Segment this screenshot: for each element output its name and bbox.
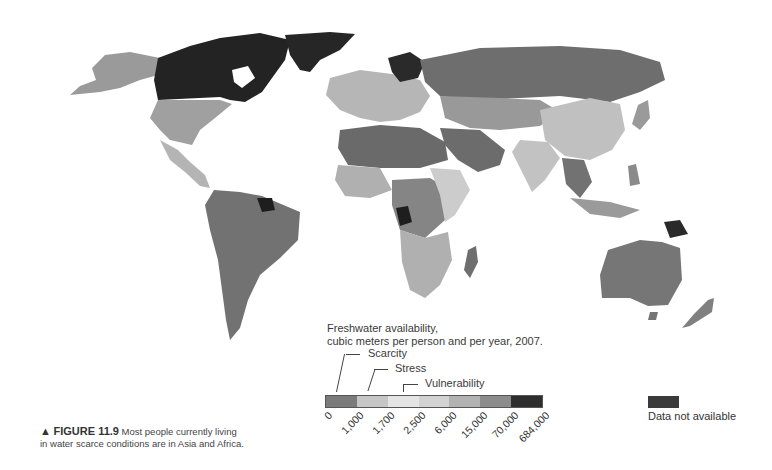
tick-0: 0 <box>322 409 335 422</box>
swatch-1000-1700 <box>357 396 388 407</box>
region-russia <box>420 46 665 102</box>
swatch-15000-70000 <box>480 396 511 407</box>
region-usa <box>150 100 232 145</box>
vulnerability-leader-h <box>404 384 418 385</box>
legend-color-bar <box>325 395 543 408</box>
label-vulnerability: Vulnerability <box>425 377 485 389</box>
tick-15000: 15,000 <box>458 409 489 440</box>
region-papua-new-guinea <box>664 220 688 238</box>
region-greenland <box>285 32 355 72</box>
no-data-label: Data not available <box>648 410 736 422</box>
swatch-0-1000 <box>326 396 357 407</box>
no-data-swatch <box>648 396 679 408</box>
region-alaska <box>70 52 160 95</box>
swatch-1700-2500 <box>388 396 419 407</box>
region-philippines <box>628 164 640 186</box>
region-southeast-asia <box>562 158 592 198</box>
region-indonesia <box>570 198 640 218</box>
region-new-zealand <box>682 298 714 328</box>
region-australia <box>600 240 682 306</box>
swatch-6000-15000 <box>449 396 480 407</box>
figure-caption: ▲ FIGURE 11.9 Most people currently livi… <box>40 425 244 450</box>
tick-2500: 2,500 <box>400 409 427 436</box>
swatch-70000-684000 <box>511 396 542 407</box>
region-middle-east <box>440 128 505 172</box>
label-scarcity: Scarcity <box>368 347 407 359</box>
scarcity-leader-h <box>346 354 360 355</box>
stress-leader-h <box>374 369 388 370</box>
region-south-america <box>205 190 300 340</box>
region-tasmania <box>648 312 658 320</box>
swatch-2500-6000 <box>419 396 450 407</box>
region-west-africa <box>335 165 392 198</box>
legend-title: Freshwater availability, cubic meters pe… <box>327 322 543 348</box>
region-southern-africa <box>400 230 452 298</box>
caption-text-line2: in water scarce conditions are in Asia a… <box>40 438 244 450</box>
caption-marker: ▲ <box>40 425 51 437</box>
caption-text-line1: Most people currently living <box>122 426 237 437</box>
label-stress: Stress <box>395 362 426 374</box>
region-india <box>512 140 560 192</box>
tick-1700: 1,700 <box>369 409 396 436</box>
vulnerability-leader-v <box>403 384 404 392</box>
region-canada <box>154 33 290 102</box>
tick-1000: 1,000 <box>338 409 365 436</box>
legend-title-line1: Freshwater availability, <box>327 322 543 335</box>
region-north-africa <box>338 125 448 168</box>
region-madagascar <box>464 246 478 278</box>
stress-leader-v <box>367 369 375 391</box>
caption-figure-number: FIGURE 11.9 <box>54 425 119 437</box>
world-map <box>0 0 772 360</box>
legend-title-line2: cubic meters per person and per year, 20… <box>327 335 543 348</box>
region-japan <box>632 100 650 130</box>
tick-684000: 684,000 <box>516 409 551 444</box>
tick-6000: 6,000 <box>431 409 458 436</box>
region-central-america <box>160 140 210 188</box>
